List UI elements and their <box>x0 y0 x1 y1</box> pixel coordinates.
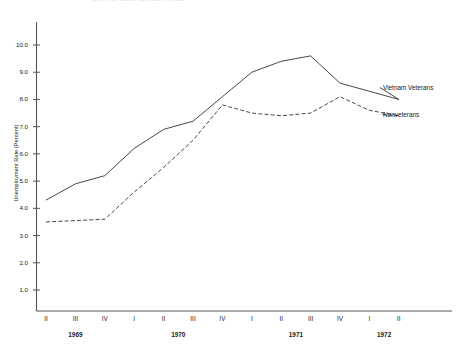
series-paths <box>46 56 399 222</box>
legend-label-vietnam-veterans: Vietnam Veterans <box>383 84 433 91</box>
x-tick-label: II <box>149 315 179 322</box>
unemployment-rate-chart: CHART 3. UNEMPLOYMENT RATES Unemployment… <box>0 0 466 355</box>
x-tick-label: II <box>31 315 61 322</box>
y-tick-label: 4.0 <box>6 204 28 211</box>
x-tick-label: III <box>296 315 326 322</box>
plot-area <box>0 0 466 355</box>
y-tick-label: 5.0 <box>6 177 28 184</box>
y-tick-label: 8.0 <box>6 95 28 102</box>
y-tick-label: 6.0 <box>6 150 28 157</box>
x-year-label: 1969 <box>55 331 95 338</box>
series-line-nonveterans <box>46 97 399 222</box>
x-year-label: 1972 <box>364 331 404 338</box>
x-tick-label: IV <box>207 315 237 322</box>
y-tick-label: 2.0 <box>6 259 28 266</box>
x-tick-label: I <box>354 315 384 322</box>
x-tick-label: I <box>237 315 267 322</box>
x-tick-label: II <box>266 315 296 322</box>
x-tick-label: III <box>178 315 208 322</box>
y-tick-label: 7.0 <box>6 123 28 130</box>
x-year-label: 1970 <box>158 331 198 338</box>
x-tick-label: IV <box>325 315 355 322</box>
x-tick-label: I <box>119 315 149 322</box>
x-tick-label: II <box>384 315 414 322</box>
y-tick-label: 9.0 <box>6 68 28 75</box>
x-tick-label: IV <box>90 315 120 322</box>
axis-lines <box>37 22 453 311</box>
y-tick-label: 1.0 <box>6 286 28 293</box>
legend-label-nonveterans: Nonveterans <box>383 111 419 118</box>
y-tick-label: 10.0 <box>6 41 28 48</box>
y-tick-label: 3.0 <box>6 232 28 239</box>
x-tick-label: III <box>60 315 90 322</box>
series-line-vietnam-veterans <box>46 56 399 200</box>
x-year-label: 1971 <box>276 331 316 338</box>
